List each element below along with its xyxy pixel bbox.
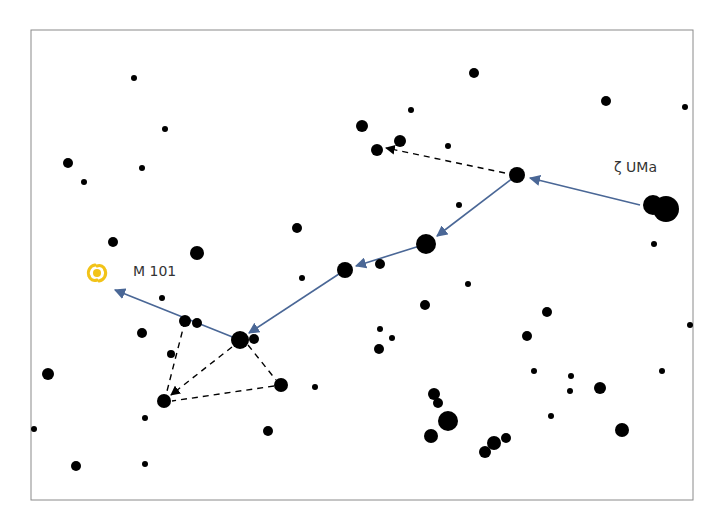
star	[356, 120, 368, 132]
star	[374, 344, 384, 354]
star	[179, 315, 191, 327]
star	[142, 461, 148, 467]
star	[231, 331, 249, 349]
star	[394, 135, 406, 147]
star	[653, 196, 679, 222]
star	[416, 234, 436, 254]
star	[299, 275, 305, 281]
star	[157, 394, 171, 408]
star	[162, 126, 168, 132]
star	[108, 237, 118, 247]
star	[312, 384, 318, 390]
star	[371, 144, 383, 156]
star	[192, 318, 202, 328]
star	[408, 107, 414, 113]
star	[42, 368, 54, 380]
star	[81, 179, 87, 185]
star	[190, 246, 204, 260]
star	[465, 281, 471, 287]
star	[509, 167, 525, 183]
label-zeta-uma: ζ UMa	[614, 159, 657, 175]
star	[71, 461, 81, 471]
star	[568, 373, 574, 379]
star	[142, 415, 148, 421]
star	[548, 413, 554, 419]
star	[567, 388, 573, 394]
label-m101: M 101	[133, 263, 176, 279]
star	[375, 259, 385, 269]
star	[274, 378, 288, 392]
star	[445, 143, 451, 149]
star	[167, 350, 175, 358]
star	[292, 223, 302, 233]
star	[479, 446, 491, 458]
star	[139, 165, 145, 171]
chart-frame	[31, 30, 693, 500]
star	[456, 202, 462, 208]
star	[531, 368, 537, 374]
star	[469, 68, 479, 78]
star	[63, 158, 73, 168]
star	[424, 429, 438, 443]
star	[615, 423, 629, 437]
star	[651, 241, 657, 247]
star	[438, 411, 458, 431]
star	[522, 331, 532, 341]
star	[433, 398, 443, 408]
star	[542, 307, 552, 317]
star	[263, 426, 273, 436]
star	[31, 426, 37, 432]
star	[337, 262, 353, 278]
star-chart: M 101 ζ UMa	[0, 0, 719, 524]
star	[687, 322, 693, 328]
star	[377, 326, 383, 332]
star	[389, 335, 395, 341]
star	[420, 300, 430, 310]
star	[159, 295, 165, 301]
star	[682, 104, 688, 110]
star	[249, 334, 259, 344]
star	[137, 328, 147, 338]
star	[131, 75, 137, 81]
star	[594, 382, 606, 394]
star	[501, 433, 511, 443]
star	[601, 96, 611, 106]
star	[659, 368, 665, 374]
